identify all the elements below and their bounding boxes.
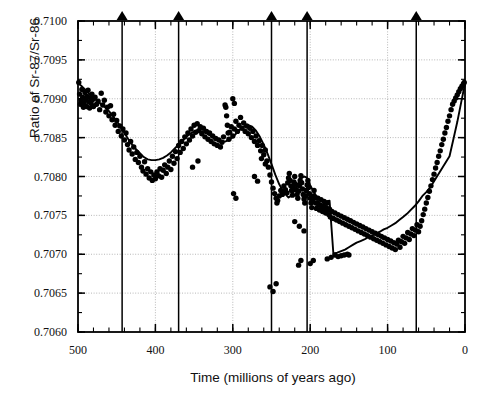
data-point [422,206,427,211]
data-point [447,113,452,118]
data-point [221,134,226,139]
data-point [292,174,297,179]
y-tick-label: 0.7070 [34,247,67,261]
data-point [232,101,237,106]
data-point [223,105,228,110]
data-point [255,143,260,148]
x-tick-label: 100 [379,343,397,357]
data-point [116,129,121,134]
data-point [292,219,297,224]
data-point [301,228,306,233]
x-tick-label: 400 [146,343,164,357]
x-axis-title: Time (millions of years ago) [78,370,468,385]
data-point [295,196,300,201]
data-point [275,198,280,203]
data-point [170,154,175,159]
data-point [233,196,238,201]
data-point [102,98,107,103]
data-point [287,171,292,176]
data-point [259,156,264,161]
data-point [448,107,453,112]
data-point [159,175,164,180]
data-point [195,158,200,163]
extinction-event-marker-triangle [302,11,313,20]
extinction-event-marker-triangle [266,11,277,20]
data-point [442,130,447,135]
data-point [231,191,236,196]
data-point [181,146,186,151]
data-point [298,258,303,263]
chart-canvas: 0.70600.70650.70700.70750.70800.70850.70… [0,0,487,398]
data-point [252,174,257,179]
data-point [309,205,314,210]
data-point [439,142,444,147]
data-point [171,161,176,166]
data-point [325,256,330,261]
y-tick-label: 0.7065 [34,286,67,300]
data-point [441,136,446,141]
y-tick-label: 0.7075 [34,208,67,222]
data-point [238,115,243,120]
y-axis-title: Ratio of Sr-87/Sr-86 [27,0,47,193]
data-point [346,252,351,257]
data-point [425,195,430,200]
data-point [431,171,436,176]
data-point [164,171,169,176]
y-tick-label: 0.7060 [34,325,67,339]
x-tick-label: 200 [301,343,319,357]
data-point [397,245,402,250]
data-point [167,158,172,163]
data-point [142,159,147,164]
data-point [230,96,235,101]
data-point [218,144,223,149]
data-point [421,212,426,217]
extinction-event-marker-triangle [117,11,128,20]
x-tick-label: 300 [224,343,242,357]
extinction-event-marker-triangle [173,11,184,20]
data-point [444,125,449,130]
data-point [407,237,412,242]
data-point [224,113,229,118]
data-point [417,224,422,229]
data-point [129,151,134,156]
data-point [99,91,104,96]
data-point [136,160,141,165]
data-point [97,107,102,112]
data-point [168,167,173,172]
data-point [424,200,429,205]
data-point [419,218,424,223]
data-point [296,262,301,267]
data-point [393,247,398,252]
data-point [436,154,441,159]
data-point [402,241,407,246]
strontium-isotope-chart: 0.70600.70650.70700.70750.70800.70850.70… [0,0,487,398]
x-tick-label: 0 [462,343,468,357]
data-point [108,103,113,108]
data-point [190,164,195,169]
data-point [297,224,302,229]
data-point [263,161,268,166]
data-point [273,281,278,286]
data-point [445,119,450,124]
data-point [272,191,277,196]
data-point [438,148,443,153]
data-point [255,178,260,183]
data-point [434,160,439,165]
data-point [433,165,438,170]
x-tick-label: 500 [69,343,87,357]
extinction-event-marker-triangle [411,11,422,20]
data-point [311,258,316,263]
